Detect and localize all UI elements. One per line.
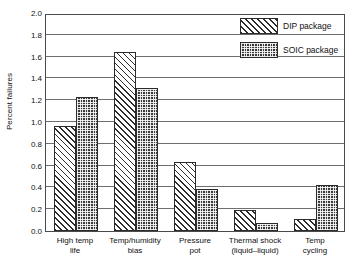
bar-dip	[54, 126, 76, 231]
bar-dip	[174, 162, 196, 231]
y-axis-tick: 0.8	[16, 141, 42, 149]
y-axis-tick: 1.0	[16, 119, 42, 127]
bar-soic	[136, 88, 158, 231]
y-axis-tick: 1.4	[16, 75, 42, 83]
x-axis-tick: Tempcycling	[270, 236, 353, 256]
legend-swatch-dip-icon	[240, 18, 278, 34]
bar-soic	[196, 189, 218, 232]
y-axis-label: Percent failures	[5, 52, 14, 152]
chart-legend: DIP package SOIC package	[195, 16, 343, 62]
bar-soic	[256, 223, 278, 231]
legend-label-dip: DIP package	[283, 21, 332, 31]
bar-chart-figure: Percent failures 2.01.81.61.41.21.00.80.…	[0, 0, 353, 268]
legend-label-soic: SOIC package	[283, 45, 338, 55]
legend-swatch-soic-icon	[240, 42, 278, 58]
y-axis-tick: 1.8	[16, 32, 42, 40]
y-axis-tick: 1.6	[16, 54, 42, 62]
bar-dip	[294, 219, 316, 231]
x-axis-tick-line: cycling	[270, 246, 353, 256]
y-axis-tick: 0.2	[16, 206, 42, 214]
bar-dip	[234, 210, 256, 231]
bar-soic	[76, 97, 98, 231]
y-axis-tick: 0.4	[16, 184, 42, 192]
bar-dip	[114, 52, 136, 231]
legend-entry-soic: SOIC package	[195, 42, 343, 58]
gridline	[46, 77, 344, 78]
bar-soic	[316, 185, 338, 231]
y-axis-tick: 1.2	[16, 97, 42, 105]
y-axis-tick: 2.0	[16, 10, 42, 18]
y-axis-tick: 0.6	[16, 163, 42, 171]
y-axis-tick: 0.0	[16, 228, 42, 236]
legend-entry-dip: DIP package	[195, 18, 343, 34]
x-axis-tick-line: Temp	[270, 236, 353, 246]
